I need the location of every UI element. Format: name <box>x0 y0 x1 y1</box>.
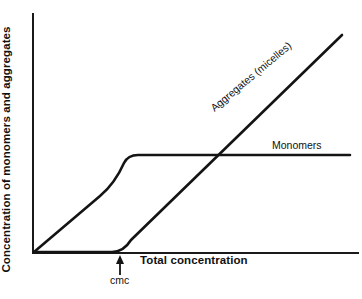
x-axis-label: Total concentration <box>140 255 248 267</box>
series-monomers <box>34 155 350 252</box>
cmc-annotation-label: cmc <box>110 275 129 286</box>
y-axis-label: Concentration of monomers and aggregates <box>0 0 20 299</box>
axes <box>33 14 358 253</box>
monomers-curve <box>34 155 350 252</box>
cmc-arrow-head <box>116 255 124 264</box>
monomers-series-label: Monomers <box>272 140 322 151</box>
chart-figure: Concentration of monomers and aggregates… <box>0 0 362 299</box>
cmc-arrow <box>116 255 124 275</box>
